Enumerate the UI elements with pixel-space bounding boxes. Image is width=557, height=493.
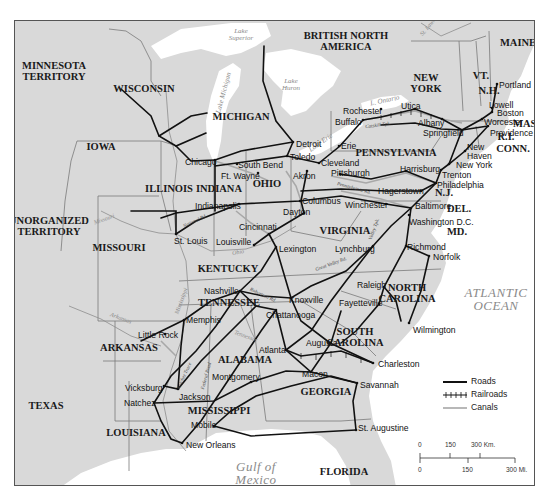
city-label-providence: Providence — [490, 129, 533, 138]
city-label-columbus: Columbus — [302, 197, 341, 206]
region-label-conn: CONN. — [496, 144, 530, 155]
city-label-albany: Albany — [418, 119, 444, 128]
city-label-philadelphia: Philadelphia — [437, 181, 484, 190]
city-label-buffalo: Buffalo — [335, 118, 362, 127]
city-label-jackson: Jackson — [179, 393, 211, 402]
region-label-arkansas: ARKANSAS — [100, 343, 158, 354]
city-dot-new-haven — [464, 150, 467, 153]
region-label-indiana: INDIANA — [196, 184, 242, 195]
city-label-nashville: Nashville — [204, 287, 239, 296]
region-label-pennsylvania: PENNSYLVANIA — [355, 148, 436, 159]
city-dot-wilmington — [408, 322, 411, 325]
city-label-trenton: Trenton — [442, 171, 471, 180]
region-label-wisconsin: WISCONSIN — [113, 84, 174, 95]
region-label-iowa: IOWA — [86, 142, 115, 153]
scale-km-150: 150 — [445, 442, 456, 449]
region-label-maine: MAINE — [500, 38, 535, 49]
region-label-missouri: MISSOURI — [92, 243, 145, 254]
region-label-north-carolina: NORTH CAROLINA — [378, 283, 435, 304]
city-label-utica: Utica — [401, 102, 421, 111]
region-label-georgia: GEORGIA — [301, 387, 352, 398]
region-label-md: MD. — [447, 227, 467, 238]
region-label-minnesota-territory: MINNESOTA TERRITORY — [22, 61, 86, 82]
city-label-wilmington: Wilmington — [413, 326, 456, 335]
region-label-vt: VT. — [473, 71, 489, 82]
city-label-rochester: Rochester — [343, 107, 382, 116]
water-label-lake-superior: Lake Superior — [229, 28, 254, 42]
city-label-ft-wayne: Ft. Wayne — [221, 172, 260, 181]
city-label-lynchburg: Lynchburg — [335, 245, 375, 254]
legend-roads-label: Roads — [471, 377, 496, 386]
city-label-new-haven: New Haven — [467, 143, 492, 160]
city-label-harrisburg: Harrisburg — [400, 165, 440, 174]
region-label-nh: N.H. — [479, 86, 500, 97]
city-label-fayetteville: Fayetteville — [339, 299, 382, 308]
city-label-atlanta: Atlanta — [259, 346, 286, 355]
city-dot-vicksburg — [163, 385, 166, 388]
scale-mi-150: 150 — [462, 467, 473, 474]
region-label-florida: FLORIDA — [320, 467, 368, 478]
city-label-portland: Portland — [499, 81, 531, 90]
city-label-pittsburgh: Pittsburgh — [331, 169, 370, 178]
city-label-new-york: New York — [456, 161, 492, 170]
region-label-mississippi: MISSISSIPPI — [188, 406, 250, 417]
city-label-new-orleans: New Orleans — [186, 441, 236, 450]
city-dot-louisville — [253, 244, 256, 247]
region-label-virginia: VIRGINIA — [320, 226, 371, 237]
city-label-natchez: Natchez — [124, 399, 156, 408]
region-label-unorganized-territory: UNORGANIZED TERRITORY — [14, 216, 89, 237]
city-label-chattanooga: Chattanooga — [266, 311, 315, 320]
region-label-tennessee: TENNESSEE — [198, 298, 260, 309]
city-dot-boston — [491, 111, 494, 114]
city-dot-memphis — [183, 319, 186, 322]
city-label-macon: Macon — [302, 370, 328, 379]
city-dot-cincinnati — [268, 233, 271, 236]
city-dot-savannah — [356, 382, 359, 385]
city-dot-new-orleans — [181, 442, 184, 445]
city-label-washington: Washington D.C. — [409, 218, 474, 227]
city-label-richmond: Richmond — [407, 243, 446, 252]
city-dot-norfolk — [428, 255, 431, 258]
city-dot-erie — [338, 145, 341, 148]
city-label-indianapolis: Indianapolis — [195, 202, 241, 211]
region-label-illinois: ILLINOIS — [145, 184, 193, 195]
city-label-norfolk: Norfolk — [433, 253, 460, 262]
legend-canals-label: Canals — [471, 403, 498, 412]
city-label-memphis: Memphis — [186, 316, 221, 325]
city-label-springfield: Springfield — [423, 129, 464, 138]
city-dot-buffalo — [362, 119, 365, 122]
city-label-dayton: Dayton — [283, 208, 310, 217]
water-label-gulf-of-mexico: Gulf of Mexico — [235, 460, 276, 486]
city-label-detroit: Detroit — [296, 140, 321, 149]
city-dot-baltimore — [410, 207, 413, 210]
map-frame: MINNESOTA TERRITORYWISCONSINMICHIGANIOWA… — [14, 20, 535, 486]
water-label-lake-huron: Lake Huron — [282, 78, 300, 92]
city-label-augusta: Augusta — [306, 339, 338, 348]
region-label-alabama: ALABAMA — [218, 355, 272, 366]
city-label-knoxville: Knoxville — [289, 296, 323, 305]
region-label-texas: TEXAS — [28, 401, 63, 412]
city-label-hagerstown: Hagerstown — [378, 187, 424, 196]
scale-km-300: 300 Km. — [471, 442, 495, 449]
city-dot-detroit — [292, 141, 295, 144]
city-label-mobile: Mobile — [191, 421, 216, 430]
water-label-atlantic-ocean: ATLANTIC OCEAN — [465, 286, 528, 312]
city-label-vicksburg: Vicksburg — [125, 384, 163, 393]
city-label-savannah: Savannah — [360, 381, 399, 390]
region-label-british-north-america: BRITISH NORTH AMERICA — [304, 31, 389, 52]
city-label-toledo: Toledo — [290, 153, 315, 162]
city-label-montgomery: Montgomery — [212, 373, 260, 382]
city-label-charleston: Charleston — [378, 360, 420, 369]
city-dot-st-augustine — [355, 429, 358, 432]
scale-km-0: 0 — [418, 442, 422, 449]
city-dot-toledo — [286, 155, 289, 158]
city-label-erie: Erie — [341, 142, 356, 151]
city-label-south-bend: South Bend — [238, 161, 283, 170]
region-label-kentucky: KENTUCKY — [198, 264, 259, 275]
city-label-baltimore: Baltimore — [415, 202, 451, 211]
city-label-raleigh: Raleigh — [357, 281, 386, 290]
region-label-louisiana: LOUISIANA — [106, 428, 166, 439]
city-label-cincinnati: Cincinnati — [239, 223, 277, 232]
city-dot-charleston — [372, 362, 375, 365]
city-label-akron: Akron — [293, 172, 315, 181]
